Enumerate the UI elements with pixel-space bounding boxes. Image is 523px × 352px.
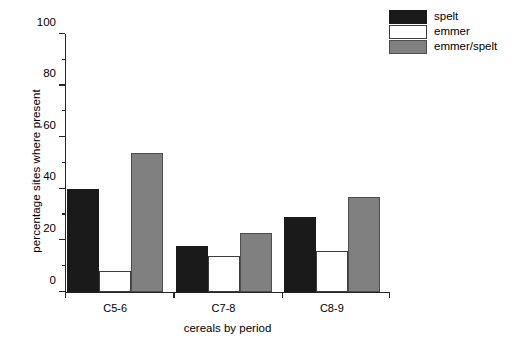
chart-legend: speltemmeremmer/spelt — [389, 9, 497, 54]
bar-emmerspelt-C7-8 — [240, 233, 272, 292]
y-tick-major-40 — [59, 188, 65, 189]
bar-emmer-C8-9 — [316, 251, 348, 292]
x-axis-line — [65, 292, 390, 293]
bar-spelt-C5-6 — [67, 189, 99, 292]
legend-label-emmerspelt: emmer/spelt — [434, 41, 497, 53]
legend-swatch-emmer — [389, 25, 427, 39]
legend-label-emmer: emmer — [434, 26, 470, 38]
y-tick-label-0: 0 — [50, 275, 56, 287]
y-axis-title: percentage sites where present — [30, 41, 42, 301]
y-tick-label-40: 40 — [43, 172, 56, 184]
y-tick-minor-90 — [62, 59, 66, 60]
legend-label-spelt: spelt — [434, 11, 458, 23]
plot-area: 020406080100 C5-6C7-8C8-9 — [65, 34, 390, 292]
x-tick-label-C7-8: C7-8 — [212, 303, 236, 314]
x-tick-2 — [282, 292, 283, 298]
x-tick-label-C8-9: C8-9 — [320, 303, 344, 314]
legend-item-emmerspelt: emmer/spelt — [389, 39, 497, 54]
y-tick-minor-10 — [62, 265, 66, 266]
y-tick-label-100: 100 — [37, 17, 56, 29]
x-tick-label-C5-6: C5-6 — [103, 303, 127, 314]
y-tick-minor-50 — [62, 162, 66, 163]
y-tick-minor-70 — [62, 110, 66, 111]
y-tick-label-80: 80 — [43, 68, 56, 80]
bar-spelt-C8-9 — [284, 217, 316, 292]
bar-emmer-C5-6 — [99, 271, 131, 292]
y-tick-label-60: 60 — [43, 120, 56, 132]
y-tick-major-100 — [59, 33, 65, 34]
y-tick-major-80 — [59, 84, 65, 85]
legend-swatch-emmerspelt — [389, 40, 427, 54]
bar-spelt-C7-8 — [176, 246, 208, 292]
bar-emmerspelt-C5-6 — [131, 153, 163, 292]
bar-emmer-C7-8 — [208, 256, 240, 292]
legend-item-spelt: spelt — [389, 9, 497, 24]
bar-emmerspelt-C8-9 — [348, 197, 380, 292]
x-tick-1 — [173, 292, 174, 298]
y-tick-major-20 — [59, 239, 65, 240]
y-tick-label-20: 20 — [43, 223, 56, 235]
legend-swatch-spelt — [389, 10, 427, 24]
x-tick-3 — [389, 292, 390, 298]
y-tick-minor-30 — [62, 213, 66, 214]
x-tick-0 — [65, 292, 66, 298]
y-tick-major-60 — [59, 136, 65, 137]
x-axis-title: cereals by period — [65, 322, 390, 334]
bar-chart-figure: percentage sites where present 020406080… — [0, 0, 523, 352]
legend-item-emmer: emmer — [389, 24, 497, 39]
